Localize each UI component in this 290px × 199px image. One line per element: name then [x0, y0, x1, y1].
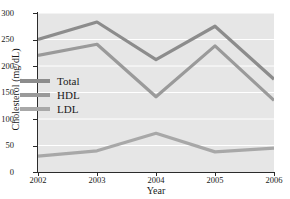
legend-swatch-hdl [20, 93, 50, 97]
y-axis-title: Cholesterol (mg/dL) [10, 15, 21, 165]
series-line-ldl [38, 133, 274, 156]
x-tick-label: 2002 [18, 176, 58, 185]
y-tick-mark [33, 119, 37, 120]
legend-item-total[interactable]: Total [20, 74, 80, 88]
y-tick-mark [33, 146, 37, 147]
y-tick-mark [33, 66, 37, 67]
cholesterol-line-chart: 050100150200250300 20022003200420052006 … [0, 0, 290, 199]
y-tick-label: 0 [10, 168, 14, 177]
legend-label: HDL [57, 90, 80, 101]
legend-item-hdl[interactable]: HDL [20, 88, 80, 102]
y-tick-mark [33, 172, 37, 173]
x-tick-label: 2006 [254, 176, 290, 185]
legend-label: Total [57, 76, 79, 87]
legend-label: LDL [57, 104, 78, 115]
legend-item-ldl[interactable]: LDL [20, 102, 80, 116]
x-tick-label: 2003 [77, 176, 117, 185]
legend-swatch-total [20, 79, 50, 83]
chart-legend: TotalHDLLDL [20, 74, 80, 116]
y-tick-mark [33, 40, 37, 41]
y-tick-mark [33, 13, 37, 14]
legend-swatch-ldl [20, 107, 50, 111]
series-line-total [38, 22, 274, 79]
x-tick-label: 2004 [136, 176, 176, 185]
x-axis-title: Year [38, 185, 274, 196]
x-tick-label: 2005 [195, 176, 235, 185]
